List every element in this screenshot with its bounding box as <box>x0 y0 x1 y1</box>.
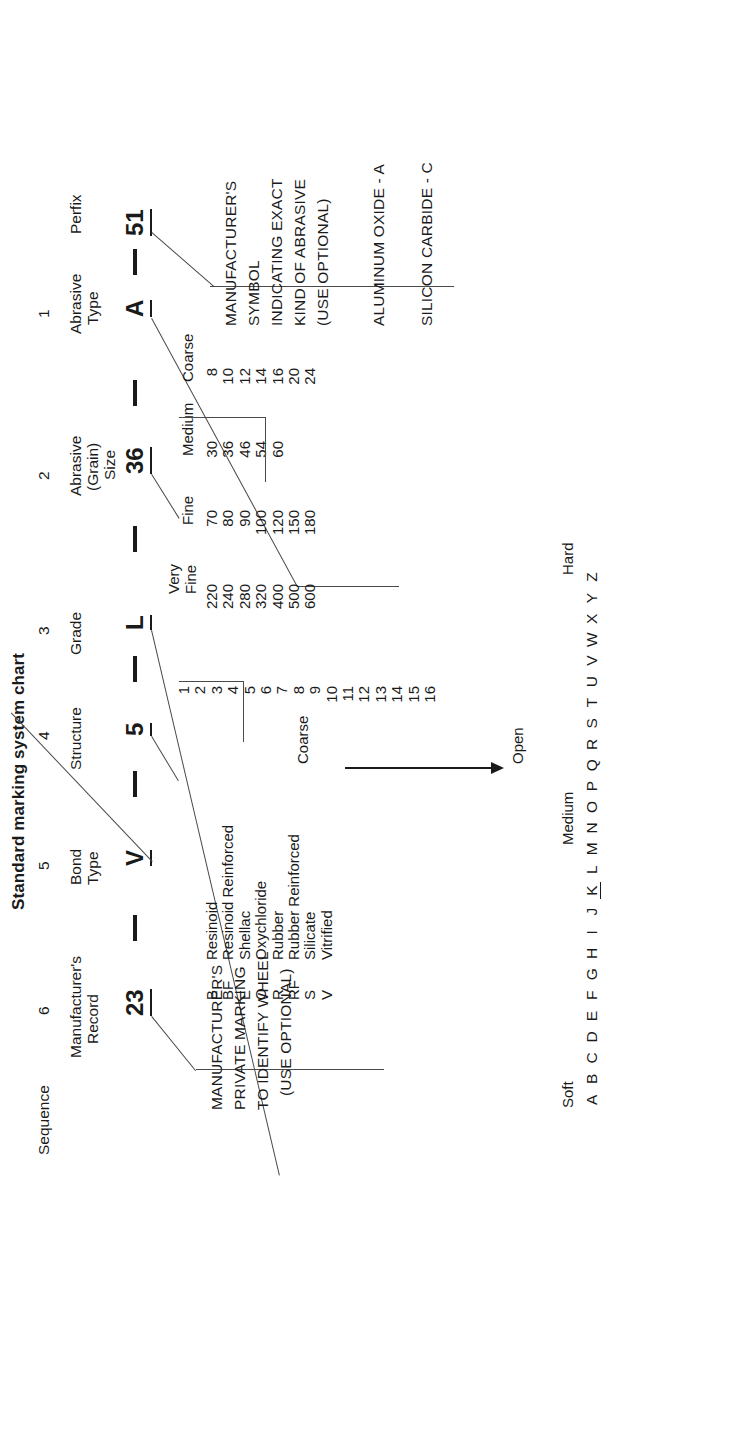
grain-size-leader-diagonal <box>151 474 180 519</box>
sequence-number-5: 5 <box>35 861 52 870</box>
grain-size-value: 14 <box>253 368 269 402</box>
grade-letter: F <box>583 987 600 1004</box>
grade-letter: M <box>583 841 600 858</box>
grain-size-value: 280 <box>237 584 253 624</box>
manufacturer-record-note-line-3: TO IDENTIFY WHEEL <box>254 951 271 1110</box>
grade-letter: Z <box>583 569 600 586</box>
grain-size-value: 400 <box>270 584 286 624</box>
grain-size-value: 70 <box>204 510 220 550</box>
sequence-number-6: 6 <box>35 1006 52 1015</box>
structure-label-coarse: Coarse <box>295 716 312 764</box>
bond-type-name-column: Resinoid Resinoid Reinforced Shellac Oxy… <box>204 770 335 960</box>
grain-size-value: 46 <box>237 441 253 475</box>
grain-size-column-very-fine: 220 240 280 320 400 500 600 <box>204 584 319 624</box>
prefix-note-line-2: SYMBOL <box>245 260 262 326</box>
column-header-abrasive-type-line2: Type <box>84 291 101 325</box>
separator-dash-6 <box>133 915 137 941</box>
grade-label-soft: Soft <box>560 1081 577 1108</box>
grain-size-value: 180 <box>302 510 318 550</box>
grain-size-column-coarse: 8 10 12 14 16 20 24 <box>204 368 319 402</box>
grain-size-leader-horiz <box>265 417 266 482</box>
column-header-prefix: Perfix <box>67 194 84 234</box>
manufacturer-record-note-line-4: (USE OPTIONAL) <box>277 968 294 1096</box>
code-value-grade: L <box>122 615 152 630</box>
grain-size-value: 8 <box>204 368 220 402</box>
column-header-grain-size-line1: Abrasive <box>67 436 84 496</box>
bond-type-code: V <box>319 970 335 1000</box>
column-header-abrasive-type-line1: Abrasive <box>67 274 84 334</box>
structure-value: 15 <box>406 686 422 730</box>
grade-letter: J <box>583 903 600 920</box>
bond-type-name: Rubber Reinforced <box>286 770 302 960</box>
grain-size-group-label-fine: Fine <box>180 496 197 525</box>
prefix-note-line-1: MANUFACTURER'S <box>222 181 239 326</box>
grade-letter: X <box>583 611 600 628</box>
grade-letter-scale: A B C D E F G H I J K L M N O P Q R S T … <box>583 569 601 1108</box>
grade-letter: Q <box>583 757 600 774</box>
grade-letter: B <box>583 1071 600 1088</box>
prefix-note-line-4: KIND OF ABRASIVE <box>291 179 308 326</box>
separator-dash-3 <box>133 526 137 552</box>
page-title: Standard marking system chart <box>9 653 28 910</box>
column-header-grade: Grade <box>67 612 84 655</box>
grade-letter: E <box>583 1008 600 1025</box>
grain-size-value: 60 <box>270 441 286 475</box>
manufacturer-record-leader-diagonal <box>151 1016 196 1071</box>
grain-size-value: 20 <box>286 368 302 402</box>
structure-value: 10 <box>324 686 340 730</box>
structure-value: 1 <box>176 686 192 730</box>
grade-letter: P <box>583 778 600 795</box>
grade-letter: N <box>583 820 600 837</box>
manufacturer-record-note-line-1: MANUFACTURER'S <box>208 965 225 1110</box>
grade-letter: O <box>583 799 600 816</box>
bond-type-name: Shellac <box>237 770 253 960</box>
grain-size-value: 600 <box>302 584 318 624</box>
structure-value: 4 <box>225 686 241 730</box>
grain-size-value: 120 <box>270 510 286 550</box>
grain-size-value: 320 <box>253 584 269 624</box>
structure-value: 11 <box>340 686 356 730</box>
code-value-grain-size: 36 <box>122 447 152 474</box>
structure-value: 7 <box>274 686 290 730</box>
grade-letter: H <box>583 945 600 962</box>
grain-size-group-label-coarse: Coarse <box>180 334 197 382</box>
grain-size-value: 54 <box>253 441 269 475</box>
column-header-grain-size-line2: (Grain) <box>84 443 101 491</box>
grade-letter: D <box>583 1029 600 1046</box>
structure-value: 16 <box>422 686 438 730</box>
structure-value: 6 <box>258 686 274 730</box>
grade-letter: V <box>583 652 600 669</box>
sequence-row-label: Sequence <box>35 1085 52 1155</box>
grade-letter: S <box>583 715 600 732</box>
grade-letter-selected: K <box>583 882 601 899</box>
separator-dash-5 <box>133 771 137 797</box>
sequence-number-2: 2 <box>35 471 52 480</box>
bond-type-name: Vitrified <box>319 770 335 960</box>
grade-letter: A <box>583 1091 600 1108</box>
manufacturer-record-note-line-2: PRIVATE MARKING <box>231 966 248 1110</box>
column-header-bond-type-line2: Type <box>84 851 101 885</box>
sequence-number-1: 1 <box>35 309 52 318</box>
grain-size-value: 30 <box>204 441 220 475</box>
column-header-grain-size-line3: Size <box>101 450 118 480</box>
structure-value: 13 <box>373 686 389 730</box>
column-header-bond-type-line1: Bond <box>67 849 84 885</box>
column-header-manufacturer-record-line1: Manufacturer's <box>67 956 84 1058</box>
grain-size-value: 36 <box>220 441 236 475</box>
code-value-structure: 5 <box>122 723 152 736</box>
code-value-manufacturer-record: 23 <box>122 989 152 1016</box>
grade-label-hard: Hard <box>560 542 577 575</box>
abrasive-type-note-line-2: SILICON CARBIDE - C <box>418 162 435 326</box>
grade-label-medium: Medium <box>560 792 577 845</box>
column-header-manufacturer-record-line2: Record <box>84 994 101 1044</box>
grain-size-group-label-very-fine: Fine <box>183 565 200 594</box>
bond-type-name: Oxychloride <box>253 770 269 960</box>
grade-letter: G <box>583 966 600 983</box>
grade-letter: Y <box>583 590 600 607</box>
grade-letter: T <box>583 694 600 711</box>
bond-type-name: Rubber <box>270 770 286 960</box>
bond-type-name: Resinoid Reinforced <box>220 770 236 960</box>
grade-letter: I <box>583 924 600 941</box>
grain-size-value: 80 <box>220 510 236 550</box>
bond-type-code: S <box>302 970 318 1000</box>
